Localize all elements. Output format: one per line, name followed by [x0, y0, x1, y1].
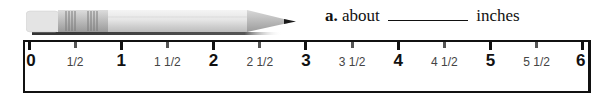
tick-mark-half	[443, 42, 446, 48]
question-letter: a.	[325, 6, 338, 25]
ruler-label: 3	[301, 51, 310, 71]
question-prefix: about	[342, 6, 380, 25]
answer-blank[interactable]	[388, 6, 468, 21]
tick-mark-whole	[28, 42, 31, 50]
tick-mark-half	[535, 42, 538, 48]
tick-mark-whole	[489, 42, 492, 50]
question-suffix: inches	[476, 6, 519, 25]
tick-mark-half	[166, 42, 169, 48]
tick-mark-half	[258, 42, 261, 48]
ruler-label: 2	[209, 51, 218, 71]
ruler-label: 5	[486, 51, 495, 71]
question-text: a. about inches	[325, 6, 520, 26]
ruler-label: 2 1/2	[246, 55, 273, 69]
inch-ruler: 01/211 1/222 1/233 1/244 1/255 1/26	[23, 40, 591, 93]
ruler-label: 1	[117, 51, 126, 71]
tick-mark-whole	[397, 42, 400, 50]
ruler-label: 0	[26, 51, 35, 71]
ruler-label: 3 1/2	[339, 55, 366, 69]
ruler-label: 1/2	[67, 55, 84, 69]
tick-mark-whole	[304, 42, 307, 50]
ruler-label: 4	[393, 51, 402, 71]
pencil-icon	[26, 6, 301, 36]
tick-mark-whole	[212, 42, 215, 50]
tick-mark-whole	[120, 42, 123, 50]
ruler-label: 4 1/2	[431, 55, 458, 69]
ruler-label: 1 1/2	[154, 55, 181, 69]
tick-mark-half	[351, 42, 354, 48]
ruler-label: 5 1/2	[523, 55, 550, 69]
ruler-label: 6	[576, 51, 585, 71]
tick-mark-whole	[581, 42, 584, 50]
tick-mark-half	[74, 42, 77, 48]
